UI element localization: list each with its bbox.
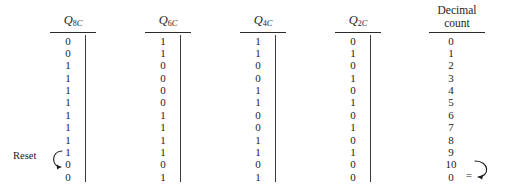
table-cell: 1 — [335, 121, 381, 133]
table-cell: 0 — [145, 72, 191, 84]
table-cell: 0 — [335, 158, 381, 170]
table-column-q6c: Q6C 1 1 0 0 0 0 1 1 1 1 0 1 — [131, 4, 205, 183]
table-cell: 8 — [429, 134, 485, 146]
column-vertical-rule-q8c — [85, 35, 86, 183]
table-cell: 1 — [240, 47, 286, 59]
column-cells-q2c: 0 1 0 1 0 1 0 1 0 1 0 0 — [335, 35, 381, 184]
q-suffix: C — [172, 18, 178, 28]
q-suffix: C — [267, 18, 273, 28]
table-cell: 1 — [335, 96, 381, 108]
table-cell: 0 — [240, 72, 286, 84]
table-cell: 1 — [145, 47, 191, 59]
table-cell: 0 — [335, 134, 381, 146]
table-cell: 1 — [335, 72, 381, 84]
table-cell: 0 — [145, 59, 191, 71]
table-cell: 0 — [335, 171, 381, 183]
table-cell: 0 — [145, 158, 191, 170]
table-cell: 5 — [429, 96, 485, 108]
q-letter: Q — [159, 13, 168, 27]
table-column-q2c: Q2C 0 1 0 1 0 1 0 1 0 1 0 0 — [321, 4, 395, 183]
table-cell: 1 — [145, 146, 191, 158]
reset-label: Reset — [13, 150, 36, 162]
table-cell: 1 — [240, 134, 286, 146]
column-cells-q6c: 1 1 0 0 0 0 1 1 1 1 0 1 — [145, 35, 191, 184]
table-cell: 0 — [335, 109, 381, 121]
table-cell: 1 — [145, 121, 191, 133]
q-suffix: C — [362, 18, 368, 28]
table-cell: 0 — [50, 35, 96, 47]
table-cell: 0 — [335, 84, 381, 96]
table-cell: 1 — [50, 84, 96, 96]
curved-arrow-icon — [47, 148, 67, 172]
column-rule-q6c — [145, 32, 191, 33]
table-cell: 0 — [240, 121, 286, 133]
table-cell: 6 — [429, 109, 485, 121]
table-cell: 1 — [335, 47, 381, 59]
table-cell: 1 — [240, 35, 286, 47]
column-rule-q2c — [335, 32, 381, 33]
table-cell: 1 — [145, 171, 191, 183]
table-cell: 0 — [50, 171, 96, 183]
table-cell: 0 — [335, 35, 381, 47]
column-header-line2: count — [444, 17, 470, 30]
column-header-symbol-q2c: Q2C — [349, 14, 368, 30]
column-header-q6c: Q6C — [131, 4, 205, 31]
table-cell: 7 — [429, 121, 485, 133]
q-letter: Q — [64, 13, 73, 27]
column-vertical-rule-q4c — [275, 35, 276, 183]
q-letter: Q — [349, 13, 358, 27]
column-vertical-rule-q2c — [370, 35, 371, 183]
table-cell: 1 — [50, 121, 96, 133]
column-header-q8c: Q8C — [36, 4, 110, 31]
table-cell: 0 — [335, 59, 381, 71]
table-cell: 1 — [240, 146, 286, 158]
table-cell: 1 — [50, 96, 96, 108]
q-suffix: C — [77, 18, 83, 28]
table-cell: 1 — [145, 109, 191, 121]
column-rule-q8c — [50, 32, 96, 33]
q-letter: Q — [254, 13, 263, 27]
table-cell: 2 — [429, 59, 485, 71]
column-header-q4c: Q4C — [226, 4, 300, 31]
table-cell: 0 — [240, 59, 286, 71]
table-cell: 9 — [429, 146, 485, 158]
column-vertical-rule-q6c — [180, 35, 181, 183]
column-header-symbol-q8c: Q8C — [64, 14, 83, 30]
table-cell: 0 — [240, 158, 286, 170]
column-header-line1: Decimal — [438, 4, 477, 17]
table-column-decimal-count: Decimal count 0 1 2 3 4 5 6 7 8 9 10 0 — [420, 4, 494, 183]
table-cell: 1 — [429, 47, 485, 59]
column-cells-q4c: 1 1 0 0 1 1 0 0 1 1 0 1 — [240, 35, 286, 184]
table-cell: 1 — [50, 59, 96, 71]
table-cell: 3 — [429, 72, 485, 84]
table-cell: 0 — [145, 96, 191, 108]
column-header-symbol-q4c: Q4C — [254, 14, 273, 30]
column-rule-q4c — [240, 32, 286, 33]
table-cell: 1 — [50, 72, 96, 84]
table-cell: 0 — [240, 109, 286, 121]
curved-arrow-icon — [470, 158, 496, 184]
table-cell: 1 — [240, 171, 286, 183]
column-header-q2c: Q2C — [321, 4, 395, 31]
table-cell: 0 — [50, 47, 96, 59]
column-header-symbol-q6c: Q6C — [159, 14, 178, 30]
table-cell: 1 — [50, 109, 96, 121]
table-cell: 0 — [145, 84, 191, 96]
table-cell: 1 — [50, 134, 96, 146]
table-cell: 1 — [335, 146, 381, 158]
table-cell: 4 — [429, 84, 485, 96]
table-cell: 0 — [429, 35, 485, 47]
table-cell: 1 — [240, 96, 286, 108]
table-cell: 1 — [145, 35, 191, 47]
column-rule-decimal-count — [429, 32, 485, 33]
table-column-q4c: Q4C 1 1 0 0 1 1 0 0 1 1 0 1 — [226, 4, 300, 183]
truth-table-figure: Q8C 0 0 1 1 1 1 1 1 1 1 0 0 Q6C — [0, 0, 512, 187]
table-cell: 1 — [145, 134, 191, 146]
column-header-decimal-count: Decimal count — [420, 4, 494, 31]
table-cell: 1 — [240, 84, 286, 96]
